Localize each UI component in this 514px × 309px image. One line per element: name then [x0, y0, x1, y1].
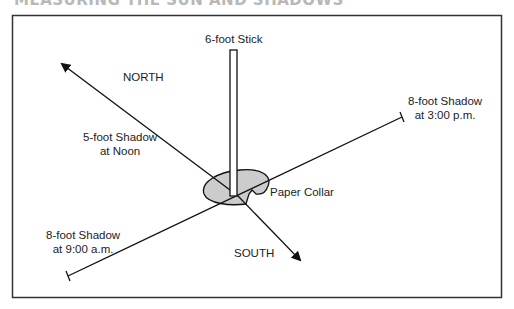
- noon-shadow-line2: at Noon: [83, 144, 157, 158]
- am-shadow-line1: 8-foot Shadow: [46, 228, 120, 242]
- pm-shadow-line2: at 3:00 p.m.: [408, 108, 482, 122]
- noon-shadow-label: 5-foot Shadow at Noon: [83, 130, 157, 158]
- north-label: NORTH: [123, 70, 164, 84]
- am-shadow-label: 8-foot Shadow at 9:00 a.m.: [46, 228, 120, 256]
- stick-label: 6-foot Stick: [205, 32, 263, 46]
- am-shadow-line2: at 9:00 a.m.: [46, 242, 120, 256]
- pm-shadow-line1: 8-foot Shadow: [408, 94, 482, 108]
- sun-shadow-diagram: [0, 0, 514, 309]
- noon-shadow-line1: 5-foot Shadow: [83, 130, 157, 144]
- south-label: SOUTH: [234, 246, 274, 260]
- pm-shadow-label: 8-foot Shadow at 3:00 p.m.: [408, 94, 482, 122]
- stick-icon: [230, 50, 237, 196]
- collar-label: Paper Collar: [270, 185, 334, 199]
